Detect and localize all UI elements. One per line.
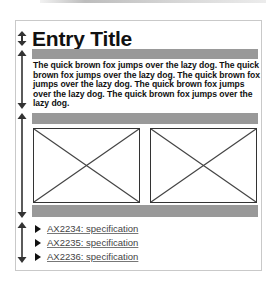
- link-item[interactable]: AX2234: specification: [34, 222, 138, 236]
- entry-title: Entry Title: [32, 28, 132, 50]
- image-placeholder-x-icon: [34, 129, 139, 202]
- spec-link-list: AX2234: specification AX2235: specificat…: [34, 222, 138, 264]
- spec-link-ax2235[interactable]: AX2235: specification: [47, 237, 138, 249]
- top-strip: [40, 0, 266, 3]
- gray-bar-gallery-top: [32, 113, 258, 124]
- spec-link-ax2236[interactable]: AX2236: specification: [47, 251, 138, 263]
- triangle-right-icon: [35, 253, 41, 261]
- gray-bar-header: [32, 49, 258, 59]
- body-height-double-arrow-icon: [17, 50, 27, 109]
- title-height-double-arrow-icon: [17, 31, 27, 46]
- image-placeholder-left: [33, 128, 140, 203]
- links-height-double-arrow-icon: [17, 222, 27, 263]
- image-placeholder-right: [150, 128, 257, 203]
- triangle-right-icon: [35, 239, 41, 247]
- gallery-height-double-arrow-icon: [17, 113, 27, 218]
- gray-bar-gallery-bottom: [32, 205, 258, 217]
- link-item[interactable]: AX2236: specification: [34, 250, 138, 264]
- entry-body-text: The quick brown fox jumps over the lazy …: [33, 61, 261, 109]
- image-placeholder-x-icon: [151, 129, 256, 202]
- spec-link-ax2234[interactable]: AX2234: specification: [47, 223, 138, 235]
- link-item[interactable]: AX2235: specification: [34, 236, 138, 250]
- triangle-right-icon: [35, 225, 41, 233]
